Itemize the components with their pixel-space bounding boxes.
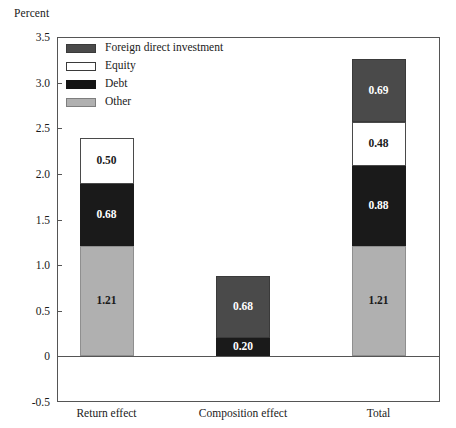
bar-segment[interactable]: 0.88 (352, 166, 406, 246)
bar[interactable]: 0.200.68 (216, 276, 270, 356)
legend-item-label: Debt (105, 78, 127, 90)
bar-segment[interactable]: 0.69 (352, 59, 406, 122)
y-axis-tick-mark (57, 265, 62, 266)
legend-swatch-icon (66, 62, 96, 71)
bar-segment-value-label: 1.21 (368, 295, 388, 307)
stacked-bar-chart: Percent 3.53.02.52.01.51.00.50-0.5 1.210… (0, 0, 456, 428)
legend-item[interactable]: Equity (66, 58, 223, 74)
bar-segment-value-label: 0.48 (368, 138, 388, 150)
bar-segment[interactable]: 1.21 (80, 246, 134, 356)
legend-swatch-icon (66, 80, 96, 89)
x-axis-category-label: Return effect (76, 407, 136, 419)
legend-item[interactable]: Foreign direct investment (66, 40, 223, 56)
legend-item-label: Other (105, 96, 131, 108)
bar-segment[interactable]: 1.21 (352, 246, 406, 356)
y-axis-tick-label: 0 (12, 350, 50, 362)
y-axis-tick-mark (57, 220, 62, 221)
bar[interactable]: 1.210.880.480.69 (352, 59, 406, 356)
legend-item[interactable]: Debt (66, 76, 223, 92)
y-axis-tick-label: 2.0 (12, 168, 50, 180)
bar[interactable]: 1.210.680.50 (80, 138, 134, 356)
legend-swatch-icon (66, 44, 96, 53)
bar-segment-value-label: 0.68 (96, 209, 116, 221)
zero-baseline (57, 356, 440, 357)
bar-segment[interactable]: 0.48 (352, 122, 406, 166)
y-axis-tick-mark (57, 311, 62, 312)
bar-segment-value-label: 0.88 (368, 200, 388, 212)
y-axis-tick-label: 2.5 (12, 122, 50, 134)
bar-segment-value-label: 0.50 (96, 155, 116, 167)
bar-segment-value-label: 0.68 (233, 301, 253, 313)
legend-item-label: Foreign direct investment (105, 42, 223, 54)
y-axis-tick-label: 3.0 (12, 77, 50, 89)
bar-segment-value-label: 0.20 (233, 341, 253, 353)
y-axis-unit-label: Percent (14, 7, 49, 19)
chart-legend: Foreign direct investmentEquityDebtOther (66, 40, 223, 110)
bar-segment-value-label: 0.69 (368, 85, 388, 97)
x-axis-category-label: Composition effect (199, 407, 287, 419)
y-axis-tick-mark (57, 83, 62, 84)
legend-swatch-icon (66, 98, 96, 107)
bar-segment[interactable]: 0.68 (216, 276, 270, 338)
legend-item[interactable]: Other (66, 94, 223, 110)
y-axis-tick-mark (57, 174, 62, 175)
y-axis-tick-label: 1.0 (12, 259, 50, 271)
x-axis-category-label: Total (367, 407, 390, 419)
bar-segment-value-label: 1.21 (96, 295, 116, 307)
y-axis-tick-mark (57, 128, 62, 129)
y-axis-tick-label: -0.5 (12, 396, 50, 408)
bar-segment[interactable]: 0.68 (80, 184, 134, 246)
bar-segment[interactable]: 0.50 (80, 138, 134, 184)
bar-segment[interactable]: 0.20 (216, 338, 270, 356)
y-axis-tick-label: 3.5 (12, 31, 50, 43)
y-axis-tick-label: 0.5 (12, 305, 50, 317)
legend-item-label: Equity (105, 60, 136, 72)
y-axis-tick-label: 1.5 (12, 214, 50, 226)
